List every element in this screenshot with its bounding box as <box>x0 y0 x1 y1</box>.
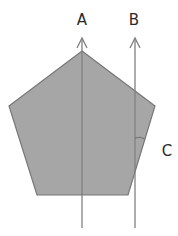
pentagon-diagram: A B C <box>0 0 178 236</box>
label-c: C <box>162 142 172 160</box>
label-b: B <box>129 11 139 29</box>
label-a: A <box>77 11 88 29</box>
